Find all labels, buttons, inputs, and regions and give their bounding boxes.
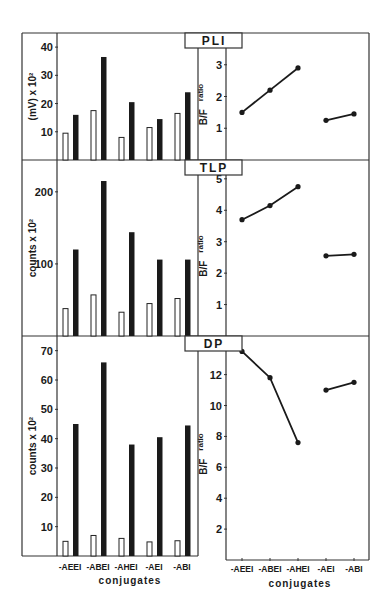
line-segment <box>242 351 298 442</box>
bar-open <box>119 137 124 160</box>
y-axis-label: counts x 10² <box>27 416 38 475</box>
data-point <box>323 387 328 392</box>
data-point <box>239 217 244 222</box>
y-tick-label: 60 <box>41 374 53 386</box>
bar-open <box>63 133 68 160</box>
line-segment <box>326 114 354 120</box>
y-tick-label: 2 <box>216 523 222 535</box>
panel-label-tlp: TLP <box>185 160 242 175</box>
data-point <box>267 203 272 208</box>
line-chart-dp: 24681012B/Fratio <box>196 349 357 535</box>
x-axis-title: conjugates <box>269 578 332 589</box>
data-point <box>239 110 244 115</box>
bar-open <box>119 312 124 336</box>
y-tick-label: 12 <box>210 369 222 381</box>
svg-text:TLP: TLP <box>200 161 229 175</box>
y-tick-label: 40 <box>41 433 53 445</box>
bar-open <box>91 111 96 160</box>
x-tick-label: -AEEI <box>231 564 254 574</box>
bar-filled <box>185 260 191 336</box>
x-tick-label: -AEEI <box>59 562 82 572</box>
bar-open <box>175 299 180 336</box>
y-tick-label: 1 <box>216 299 222 311</box>
bar-open <box>147 304 152 336</box>
bar-filled <box>129 445 135 556</box>
y-tick-label: 4 <box>216 204 223 216</box>
bar-filled <box>129 232 135 336</box>
y-tick-label: 8 <box>216 430 222 442</box>
y-tick-label: 10 <box>41 126 53 138</box>
y-tick-label: 200 <box>35 186 53 198</box>
y-tick-label: 70 <box>41 345 53 357</box>
data-point <box>267 375 272 380</box>
bar-filled <box>101 362 107 556</box>
bar-open <box>147 542 152 556</box>
bar-filled <box>101 57 107 160</box>
y-axis-label: (mV) x 10² <box>27 72 38 120</box>
bar-open <box>63 309 68 336</box>
bar-filled <box>129 102 135 160</box>
panel-label-dp: DP <box>185 336 242 351</box>
bar-filled <box>185 425 191 556</box>
line-chart-tlp: 12345B/Fratio <box>196 173 357 311</box>
line-chart-pli: 123B/Fratio <box>196 59 357 135</box>
bar-filled <box>73 115 79 160</box>
x-tick-label: -AEI <box>318 564 335 574</box>
data-point <box>351 380 356 385</box>
y-tick-label: 6 <box>216 461 222 473</box>
bar-filled <box>157 437 163 556</box>
y-tick-label: 30 <box>41 462 53 474</box>
bar-filled <box>157 119 163 160</box>
data-point <box>295 184 300 189</box>
line-segment <box>326 254 354 256</box>
bar-open <box>91 295 96 336</box>
y-tick-label: 10 <box>210 400 222 412</box>
y-tick-label: 2 <box>216 267 222 279</box>
x-axis-line: -AEEI-ABEI-AHEI-AEI-ABIconjugates <box>231 564 363 589</box>
y-tick-label: 40 <box>41 41 53 53</box>
x-tick-label: -ABEI <box>258 564 281 574</box>
bar-chart-pli: 10203040(mV) x 10² <box>27 41 191 160</box>
bar-open <box>63 541 68 556</box>
bar-open <box>147 128 152 160</box>
y-tick-label: 3 <box>216 236 222 248</box>
data-point <box>351 252 356 257</box>
svg-text:PLI: PLI <box>202 34 227 48</box>
bar-filled <box>157 260 163 336</box>
line-segment <box>326 382 354 390</box>
data-point <box>267 88 272 93</box>
y-tick-label: 20 <box>41 491 53 503</box>
bar-filled <box>101 181 107 336</box>
bar-chart-tlp: 100200counts x 10² <box>27 181 191 336</box>
svg-text:DP: DP <box>204 337 225 351</box>
x-tick-label: -ABI <box>345 564 362 574</box>
y-tick-label: 10 <box>41 521 53 533</box>
y-tick-label: 2 <box>216 91 222 103</box>
data-point <box>323 253 328 258</box>
data-point <box>295 65 300 70</box>
y-tick-label: 20 <box>41 98 53 110</box>
data-point <box>323 118 328 123</box>
y-tick-label: 1 <box>216 122 222 134</box>
x-axis-bar: -AEEI-ABEI-AHEI-AEI-ABIconjugates <box>59 562 191 586</box>
bar-open <box>119 538 124 556</box>
x-tick-label: -ABEI <box>86 562 109 572</box>
x-tick-label: -AHEI <box>114 562 137 572</box>
bar-filled <box>73 250 79 337</box>
data-point <box>351 111 356 116</box>
figure-canvas: 10203040(mV) x 10²123B/FratioPLI100200co… <box>0 0 387 610</box>
x-tick-label: -AEI <box>146 562 163 572</box>
y-tick-label: 50 <box>41 403 53 415</box>
bar-chart-dp: 10203040506070counts x 10² <box>27 345 191 556</box>
bar-filled <box>185 92 191 160</box>
bar-open <box>175 541 180 556</box>
y-axis-label: counts x 10² <box>27 218 38 277</box>
bar-open <box>175 113 180 160</box>
bar-filled <box>73 424 79 556</box>
bar-open <box>91 535 96 556</box>
x-tick-label: -ABI <box>173 562 190 572</box>
x-tick-label: -AHEI <box>286 564 309 574</box>
panel-label-pli: PLI <box>185 33 242 48</box>
x-axis-title: conjugates <box>99 575 162 586</box>
y-tick-label: 30 <box>41 69 53 81</box>
